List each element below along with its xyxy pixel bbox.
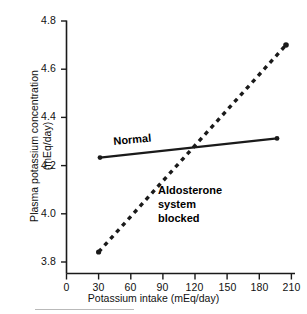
series-label-blocked-line3: blocked (158, 211, 222, 225)
series-marker-normal-end (275, 136, 280, 141)
series-label-blocked-line2: system (158, 197, 222, 211)
y-tick-label-4.8: 4.8 (26, 14, 56, 26)
y-tick-label-3.8: 3.8 (26, 255, 56, 267)
chart-figure: 4.8 4.6 4.4 4.2 4.0 3.8 0 30 60 90 120 1… (0, 0, 307, 314)
footer-rule (35, 309, 134, 310)
series-label-blocked-line1: Aldosterone (158, 183, 222, 197)
x-axis-title: Potassium intake (mEq/day) (0, 292, 307, 304)
series-marker-normal-start (98, 155, 103, 160)
y-axis-title-line1: Plasma potassium concentration (28, 70, 41, 222)
y-tick-marks (61, 21, 67, 262)
series-marker-blocked-end (283, 42, 289, 48)
y-axis-title: Plasma potassium concentration (mEq/day) (27, 41, 55, 251)
y-axis-title-line2: (mEq/day) (41, 122, 54, 170)
x-tick-marks (67, 274, 292, 280)
series-label-aldosterone-blocked: Aldosterone system blocked (158, 183, 222, 225)
series-marker-blocked-start (96, 249, 101, 254)
